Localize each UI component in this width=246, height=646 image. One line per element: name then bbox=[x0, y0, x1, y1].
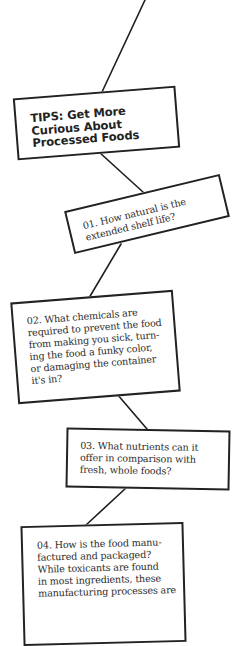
connector-q2-to-q3 bbox=[117, 394, 147, 429]
question-text-02: 02. What chemicals are required to preve… bbox=[26, 304, 177, 387]
question-text-03: 03. What nutrients can it offer in compa… bbox=[80, 440, 229, 479]
connector-title-to-q1 bbox=[99, 152, 143, 192]
connector-q1-to-q2 bbox=[89, 244, 121, 298]
question-box-03: 03. What nutrients can it offer in compa… bbox=[65, 428, 230, 491]
question-text-04: 04. How is the food manu- factured and p… bbox=[37, 536, 184, 600]
title-text: TIPS: Get More Curious About Processed F… bbox=[30, 101, 177, 150]
question-box-04: 04. How is the food manu- factured and p… bbox=[20, 522, 186, 646]
title-box: TIPS: Get More Curious About Processed F… bbox=[13, 86, 180, 161]
connector-q3-to-q4 bbox=[86, 488, 126, 525]
connector-top-to-title bbox=[102, 0, 145, 92]
question-box-02: 02. What chemicals are required to preve… bbox=[10, 290, 181, 404]
